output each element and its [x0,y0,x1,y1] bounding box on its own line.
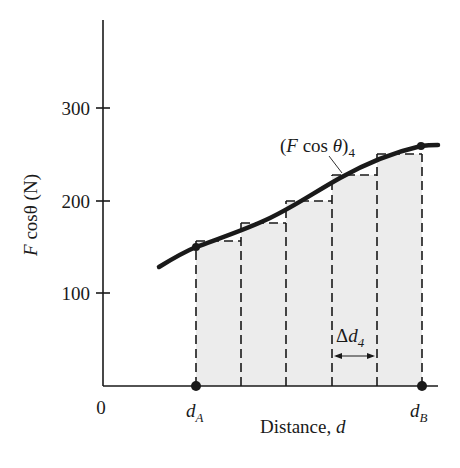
curve-label: (F cos θ)4 [280,135,355,160]
dB-label: dB [410,400,428,425]
point-dA-on-curve [192,243,200,251]
strip-fill-2 [241,223,286,386]
strip-fill-1 [196,241,241,386]
y-axis-title-var: F [20,244,41,257]
strip-fill-3 [286,201,332,386]
dA-base: d [186,400,196,421]
dA-label: dA [186,400,204,425]
y-tick-label-200: 200 [62,191,91,212]
y-tick-label-300: 300 [62,98,91,119]
curve-label-leader [329,156,342,173]
work-diagram: 300 200 100 0 F cosθ (N) dA dB Distance,… [0,0,460,468]
dA-sub: A [195,410,204,425]
curve-label-cos: cos [298,135,333,156]
point-dA-on-axis [191,381,201,391]
strip-fills [196,154,422,386]
delta-symbol: Δ [336,325,348,346]
strip-fill-5 [377,154,422,386]
point-dB-on-axis [417,381,427,391]
origin-label: 0 [96,397,106,418]
curve-label-theta: θ [333,135,342,156]
curve-label-sub: 4 [348,145,355,160]
delta-sub: 4 [358,335,365,350]
y-tick-label-100: 100 [62,283,91,304]
x-axis-title: Distance, d [260,416,346,437]
x-axis-title-prefix: Distance, [260,416,336,437]
y-axis-title-rest: cosθ (N) [20,174,42,244]
y-axis-title: F cosθ (N) [20,174,42,257]
x-axis-title-var: d [336,416,346,437]
dB-base: d [410,400,420,421]
curve-label-F: F [285,135,298,156]
dB-sub: B [420,410,428,425]
point-dB-on-curve [417,142,425,150]
delta-d: d [348,325,358,346]
